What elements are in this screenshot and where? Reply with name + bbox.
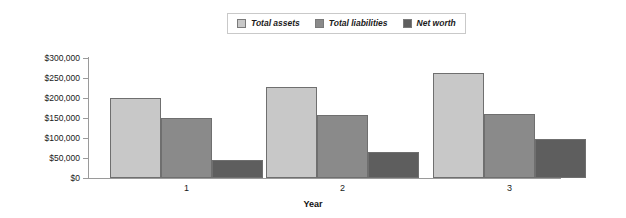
x-axis-label: 2 <box>323 184 363 193</box>
chart-legend: Total assets Total liabilities Net worth <box>227 13 466 34</box>
x-axis-line <box>88 178 561 179</box>
bar-chart: Total assets Total liabilities Net worth… <box>0 0 626 218</box>
y-axis-tick-label: $200,000 <box>0 94 80 103</box>
legend-item-total-liabilities: Total liabilities <box>315 19 388 28</box>
bar-group <box>433 58 586 178</box>
y-axis-tick-label: $50,000 <box>0 154 80 163</box>
bar-total-assets <box>110 98 161 178</box>
plot-area <box>88 58 556 178</box>
y-axis-tick-label: $250,000 <box>0 74 80 83</box>
x-axis-label: 3 <box>490 184 530 193</box>
y-axis-tick-label: $0 <box>0 174 80 183</box>
bar-group <box>266 58 419 178</box>
legend-swatch-net-worth <box>403 19 412 28</box>
bar-group <box>110 58 263 178</box>
bar-net-worth <box>535 139 586 178</box>
legend-label-total-assets: Total assets <box>251 19 300 28</box>
legend-swatch-total-liabilities <box>315 19 324 28</box>
x-axis-label: 1 <box>167 184 207 193</box>
legend-item-net-worth: Net worth <box>403 19 456 28</box>
legend-swatch-total-assets <box>237 19 246 28</box>
legend-item-total-assets: Total assets <box>237 19 300 28</box>
y-axis-tick-label: $150,000 <box>0 114 80 123</box>
bar-net-worth <box>368 152 419 178</box>
x-axis-title: Year <box>0 200 626 209</box>
bar-total-liabilities <box>161 118 212 178</box>
legend-label-total-liabilities: Total liabilities <box>329 19 388 28</box>
y-axis-tick <box>83 178 88 179</box>
bar-total-assets <box>433 73 484 178</box>
y-axis-tick-label: $300,000 <box>0 54 80 63</box>
bar-total-assets <box>266 87 317 178</box>
y-axis-tick-label: $100,000 <box>0 134 80 143</box>
legend-label-net-worth: Net worth <box>417 19 456 28</box>
bar-total-liabilities <box>484 114 535 178</box>
bar-total-liabilities <box>317 115 368 178</box>
bar-net-worth <box>212 160 263 178</box>
